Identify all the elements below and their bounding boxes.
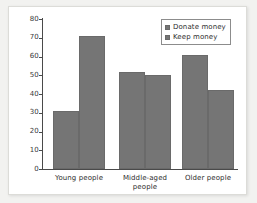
x-axis-line [42,169,238,170]
y-axis-tick-label: 70 [30,34,39,41]
y-axis-tick-label: 50 [30,72,39,79]
chart-legend: Donate money Keep money [161,19,231,45]
bar-donate-money [53,111,79,169]
y-axis-tick-label: 30 [30,109,39,116]
legend-swatch-icon-donate-money [165,25,170,30]
y-axis-tick-label: 20 [30,128,39,135]
y-axis-line [42,18,43,170]
y-axis-tick-mark [39,169,42,170]
bar-keep-money [79,36,105,169]
x-axis-category-label-line: people [105,183,185,192]
y-axis-tick-mark [39,57,42,58]
y-axis-tick-mark [39,75,42,76]
y-axis-tick-label: 0 [34,166,39,173]
y-axis-tick-mark [39,19,42,20]
y-axis-tick-mark [39,132,42,133]
y-axis-tick-label: 60 [30,53,39,60]
bar-donate-money [119,72,145,170]
y-axis-tick-label: 10 [30,147,39,154]
legend-label-keep-money: Keep money [173,33,218,41]
y-axis-tick-label: 80 [30,16,39,23]
bar-keep-money [208,90,234,169]
y-axis-tick-mark [39,113,42,114]
bar-chart-plot-area: 01020304050607080 Young peopleMiddle-age… [9,7,248,196]
bar-donate-money [182,55,208,169]
legend-item-donate-money: Donate money [165,22,226,32]
legend-item-keep-money: Keep money [165,32,226,42]
y-axis-tick-label: 40 [30,91,39,98]
page-background: 01020304050607080 Young peopleMiddle-age… [0,0,257,203]
y-axis-tick-mark [39,38,42,39]
y-axis-tick-mark [39,150,42,151]
y-axis-tick-mark [39,94,42,95]
x-axis-category-label-line: Older people [168,174,248,183]
bar-keep-money [145,75,171,169]
x-axis-category-label: Older people [168,174,248,183]
legend-swatch-icon-keep-money [165,35,170,40]
chart-card: 01020304050607080 Young peopleMiddle-age… [8,6,247,195]
legend-label-donate-money: Donate money [173,23,226,31]
